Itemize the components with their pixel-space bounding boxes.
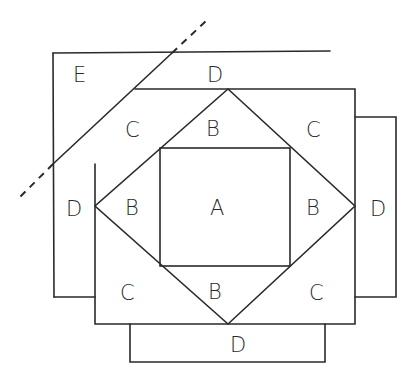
diagonal-cut-dashed-top [172, 20, 207, 53]
label-a: A [210, 196, 224, 220]
label-c-top-left: C [125, 118, 140, 142]
label-d-bottom: D [230, 333, 246, 357]
label-b-bottom: B [208, 280, 222, 304]
diagonal-cut-dashed-bottom [20, 164, 53, 197]
top-border-line [53, 51, 330, 53]
label-c-bottom-right: C [309, 281, 324, 305]
label-c-bottom-left: C [120, 281, 135, 305]
a-square [160, 148, 290, 266]
label-b-top: B [206, 117, 220, 141]
quilt-block-diagram: A B B B B C C C C D D D D E [0, 0, 419, 388]
label-c-top-right: C [306, 118, 321, 142]
label-d-right: D [370, 197, 386, 221]
label-b-left: B [125, 196, 139, 220]
label-d-top: D [207, 63, 223, 87]
left-border-line [53, 53, 54, 297]
label-e: E [73, 63, 86, 87]
label-d-left: D [66, 197, 82, 221]
diagonal-cut-solid [53, 53, 172, 164]
label-b-right: B [306, 196, 320, 220]
bottom-d-strip [130, 324, 325, 362]
